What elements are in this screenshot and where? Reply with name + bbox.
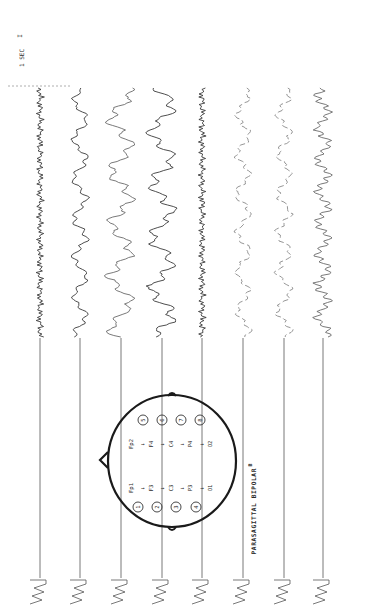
chain-arrow-icon: → <box>141 440 145 447</box>
panel-letter: B <box>247 463 253 466</box>
channel-number-2: 2 <box>154 505 160 508</box>
montage-label: B PARASAGITTAL BIPOLAR <box>247 463 257 554</box>
chain-arrow-icon: → <box>141 484 145 491</box>
eeg-figure: I 1 SEC Fp2→F4→C4→P4→O2 Fp1→F3→C3→P3→O1 … <box>0 0 366 614</box>
eeg-trace-channel-2 <box>71 88 90 337</box>
nose-icon <box>100 452 108 468</box>
calibration-pulse-channel-8 <box>313 580 329 604</box>
electrode-label-p3: P3 <box>187 485 193 492</box>
electrode-label-f4: F4 <box>148 440 154 447</box>
channel-number-8: 8 <box>197 418 203 421</box>
eeg-trace-channel-5 <box>198 88 206 337</box>
left-channel-numbers: 1234 <box>133 502 201 512</box>
right-electrode-chain: Fp2→F4→C4→P4→O2 <box>128 439 213 449</box>
chain-arrow-icon: → <box>181 484 185 491</box>
eeg-baselines <box>40 338 323 578</box>
electrode-label-c4: C4 <box>168 440 174 447</box>
right-channel-numbers: 5678 <box>138 415 205 425</box>
eeg-trace-channel-8 <box>313 88 333 337</box>
time-marker-label: 1 SEC <box>18 49 25 67</box>
electrode-label-f3: F3 <box>148 485 154 492</box>
chain-arrow-icon: → <box>161 484 165 491</box>
electrode-label-fp2: Fp2 <box>128 439 135 449</box>
eeg-trace-channel-4 <box>146 88 177 337</box>
eeg-recording-svg: I 1 SEC Fp2→F4→C4→P4→O2 Fp1→F3→C3→P3→O1 … <box>0 0 366 614</box>
electrode-label-o2: O2 <box>207 441 213 448</box>
eeg-trace-channel-1 <box>36 88 44 337</box>
calibration-pulse-channel-5 <box>192 580 208 604</box>
channel-number-7: 7 <box>178 418 184 421</box>
electrode-label-p4: P4 <box>187 440 193 447</box>
eeg-trace-channel-6 <box>234 88 252 337</box>
head-outline <box>108 395 236 527</box>
chain-arrow-icon: → <box>161 440 165 447</box>
time-marker-tick: I <box>16 34 23 38</box>
time-marker: I 1 SEC <box>8 34 70 86</box>
channel-number-6: 6 <box>159 418 165 421</box>
chain-arrow-icon: → <box>200 440 204 447</box>
calibration-pulse-channel-2 <box>70 580 86 604</box>
chain-arrow-icon: → <box>200 484 204 491</box>
calibration-pulse-channel-1 <box>30 580 46 604</box>
calibration-pulse-channel-7 <box>274 580 290 604</box>
channel-number-1: 1 <box>135 505 141 508</box>
electrode-label-fp1: Fp1 <box>128 483 135 493</box>
montage-title: PARASAGITTAL BIPOLAR <box>250 468 257 555</box>
calibration-pulse-channel-4 <box>152 580 168 604</box>
channel-number-3: 3 <box>173 505 179 508</box>
eeg-traces <box>36 88 332 337</box>
eeg-trace-channel-3 <box>105 88 136 337</box>
channel-number-4: 4 <box>193 505 199 509</box>
electrode-label-o1: O1 <box>207 485 213 492</box>
calibration-pulse-channel-3 <box>111 580 127 604</box>
electrode-label-c3: C3 <box>168 485 174 492</box>
channel-number-5: 5 <box>140 418 146 421</box>
head-diagram: Fp2→F4→C4→P4→O2 Fp1→F3→C3→P3→O1 5678 123… <box>100 393 236 530</box>
calibration-pulses <box>30 580 329 604</box>
left-electrode-chain: Fp1→F3→C3→P3→O1 <box>128 483 213 493</box>
chain-arrow-icon: → <box>181 440 185 447</box>
calibration-pulse-channel-6 <box>233 580 249 604</box>
eeg-trace-channel-7 <box>274 88 293 337</box>
